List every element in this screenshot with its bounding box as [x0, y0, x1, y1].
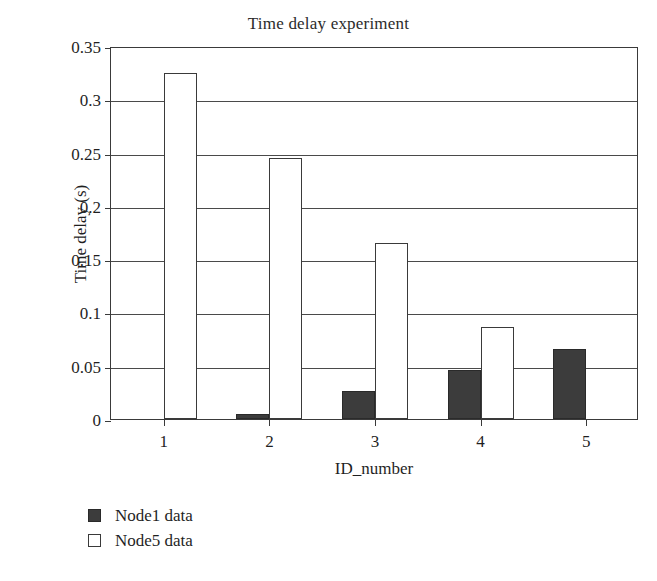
y-axis-tick — [105, 101, 111, 102]
y-axis-tick-label: 0.05 — [27, 358, 101, 378]
y-axis-tick — [105, 48, 111, 49]
bar-node1-5 — [553, 349, 586, 419]
y-axis-tick-label: 0.3 — [27, 91, 101, 111]
x-axis-tick-label: 4 — [461, 432, 501, 452]
legend-label: Node1 data — [115, 506, 193, 526]
x-axis-tick — [481, 419, 482, 426]
y-axis-tick — [105, 368, 111, 369]
x-axis-tick — [269, 419, 270, 426]
y-axis-tick — [105, 261, 111, 262]
y-axis-title: Time delay (s) — [71, 144, 91, 324]
chart-title: Time delay experiment — [0, 14, 657, 34]
x-axis-tick — [164, 419, 165, 426]
x-axis-tick — [586, 419, 587, 426]
legend-label: Node5 data — [115, 531, 193, 551]
y-axis-tick-label: 0.2 — [27, 198, 101, 218]
bar-node5-3 — [375, 243, 408, 419]
y-axis-tick-label: 0.35 — [27, 38, 101, 58]
x-axis-tick-label: 5 — [566, 432, 606, 452]
x-axis-tick-label: 2 — [249, 432, 289, 452]
legend-swatch-node5 — [88, 534, 101, 547]
y-axis-tick-label: 0.1 — [27, 304, 101, 324]
x-axis-tick-label: 3 — [355, 432, 395, 452]
x-axis-tick — [375, 419, 376, 426]
y-axis-tick — [105, 314, 111, 315]
bar-node5-4 — [481, 327, 514, 419]
y-axis-tick-label: 0.15 — [27, 251, 101, 271]
bar-node5-2 — [269, 158, 302, 419]
bar-node1-4 — [448, 370, 481, 419]
y-axis-tick — [105, 421, 111, 422]
bar-node1-3 — [342, 391, 375, 419]
x-axis-tick-label: 1 — [144, 432, 184, 452]
y-axis-tick — [105, 155, 111, 156]
legend-item: Node1 data — [88, 503, 193, 528]
y-axis-tick-label: 0.25 — [27, 145, 101, 165]
bar-node1-2 — [236, 414, 269, 419]
y-axis-tick — [105, 208, 111, 209]
y-axis-tick-label: 0 — [27, 411, 101, 431]
x-axis-title: ID_number — [110, 459, 638, 479]
plot-area: Time delay (s) 00.050.10.150.20.250.30.3… — [110, 47, 638, 420]
legend-item: Node5 data — [88, 528, 193, 553]
legend-swatch-node1 — [88, 509, 101, 522]
bar-node5-1 — [164, 73, 197, 419]
legend: Node1 dataNode5 data — [88, 503, 193, 553]
